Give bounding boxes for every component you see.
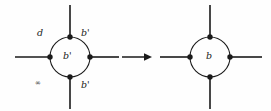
left-graph-node-left — [47, 54, 52, 59]
graph-transformation-figure: d b' b' ∞ b' b — [0, 0, 271, 111]
left-graph-node-top — [67, 34, 72, 39]
left-graph-label-top-left: d — [37, 28, 43, 38]
left-graph-label-bottom-left: ∞ — [35, 80, 41, 87]
left-graph-node-right — [87, 54, 92, 59]
right-graph-node-bottom — [207, 74, 212, 79]
right-graph-node-top — [207, 34, 212, 39]
left-graph-label-top-right: b' — [81, 28, 90, 38]
transition-arrow-group — [122, 53, 152, 61]
figure-vector-canvas — [0, 0, 271, 111]
right-graph-node-right — [227, 54, 232, 59]
arrow-right-icon-head — [144, 53, 152, 61]
right-graph-label-center: b — [206, 51, 212, 61]
left-graph-label-bottom-right: b' — [81, 80, 90, 90]
left-graph-label-center: b' — [63, 51, 72, 61]
right-graph-node-left — [187, 54, 192, 59]
left-graph-node-bottom — [67, 74, 72, 79]
